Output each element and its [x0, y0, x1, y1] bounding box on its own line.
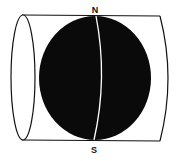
globe: [39, 16, 151, 140]
projection-diagram: N S: [0, 0, 178, 161]
cylinder-left-end: [11, 15, 35, 140]
cylinder-right-edge: [160, 16, 168, 141]
north-pole-label: N: [92, 5, 99, 15]
cylinder-bottom-edge: [22, 140, 160, 141]
south-pole-label: S: [91, 145, 97, 155]
cylinder-top-edge: [22, 15, 160, 16]
